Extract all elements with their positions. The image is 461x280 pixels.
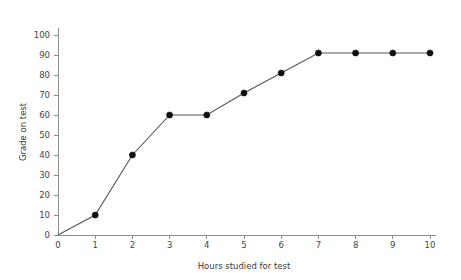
x-tick-label: 10 xyxy=(425,240,436,250)
y-tick-label: 80 xyxy=(39,70,50,80)
x-tick-label: 4 xyxy=(204,240,209,250)
x-tick-label: 8 xyxy=(353,240,358,250)
data-point xyxy=(204,112,210,118)
data-point xyxy=(278,70,284,76)
data-points-group xyxy=(92,50,433,218)
data-point xyxy=(315,50,321,56)
x-axis-ticks: 012345678910 xyxy=(55,235,435,250)
y-tick-label: 100 xyxy=(34,30,50,40)
y-tick-label: 70 xyxy=(39,90,50,100)
x-tick-label: 2 xyxy=(130,240,135,250)
data-point xyxy=(167,112,173,118)
x-tick-label: 7 xyxy=(316,240,321,250)
y-axis-ticks: 0102030405060708090100 xyxy=(34,30,58,240)
y-tick-label: 30 xyxy=(39,170,50,180)
y-tick-label: 50 xyxy=(39,130,50,140)
y-tick-label: 0 xyxy=(45,230,50,240)
x-tick-label: 0 xyxy=(55,240,60,250)
y-axis-title: Grade on test xyxy=(18,102,28,161)
x-tick-label: 9 xyxy=(390,240,395,250)
x-axis-title: Hours studied for test xyxy=(198,261,291,271)
data-point xyxy=(427,50,433,56)
y-tick-label: 10 xyxy=(39,210,50,220)
y-tick-label: 60 xyxy=(39,110,50,120)
x-tick-label: 5 xyxy=(241,240,246,250)
x-tick-label: 3 xyxy=(167,240,172,250)
chart-container: 0102030405060708090100 012345678910 Hour… xyxy=(0,0,461,280)
data-point xyxy=(241,90,247,96)
x-tick-label: 1 xyxy=(92,240,97,250)
y-tick-label: 90 xyxy=(39,50,50,60)
data-line-grade-on-test xyxy=(58,53,430,235)
y-tick-label: 40 xyxy=(39,150,50,160)
data-point xyxy=(390,50,396,56)
data-point xyxy=(92,212,98,218)
data-point xyxy=(353,50,359,56)
line-chart-plot: 0102030405060708090100 012345678910 Hour… xyxy=(0,0,461,280)
data-point xyxy=(129,152,135,158)
x-tick-label: 6 xyxy=(278,240,283,250)
y-tick-label: 20 xyxy=(39,190,50,200)
